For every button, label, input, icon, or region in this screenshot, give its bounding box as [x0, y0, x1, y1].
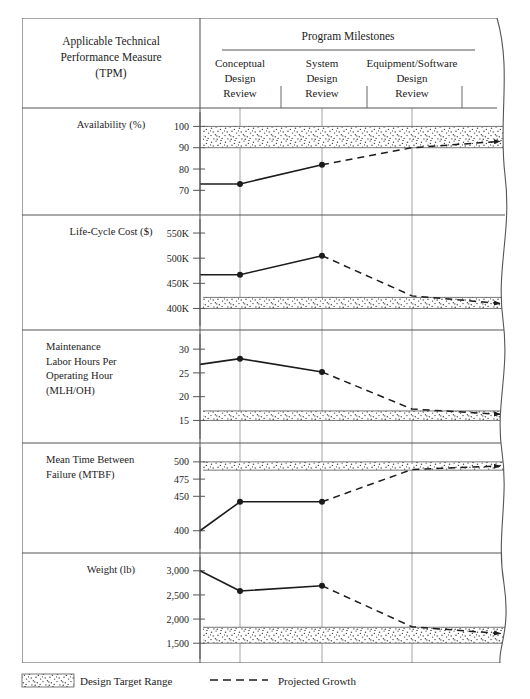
milestone-label-line: Design [224, 72, 256, 84]
milestone-header-equipment-software-design-review: Equipment/SoftwareDesignReview [366, 57, 457, 99]
data-point-marker [237, 272, 243, 278]
milestone-label-line: Review [395, 87, 429, 99]
design-target-range-band [203, 297, 512, 308]
y-tick-label: 80 [179, 164, 189, 175]
series-actual [200, 253, 325, 278]
milestone-header-conceptual-design-review: ConceptualDesignReview [215, 57, 265, 99]
y-tick-label: 25 [179, 368, 189, 379]
row-label-weight: Weight (lb) [87, 564, 136, 576]
tpm-tracking-figure: Applicable TechnicalPerformance Measure(… [0, 0, 530, 699]
row-label-line: Life-Cycle Cost ($) [70, 226, 153, 238]
y-tick-label: 3,000 [167, 565, 190, 576]
row-label-life-cycle-cost: Life-Cycle Cost ($) [70, 226, 153, 238]
panel-availability: 100908070Availability (%) [77, 108, 512, 215]
legend: Design Target RangeProjected Growth [22, 674, 356, 687]
panel-weight: 3,0002,5002,0001,500Weight (lb) [87, 553, 512, 663]
series-actual [200, 162, 325, 187]
row-label-availability: Availability (%) [77, 119, 146, 131]
milestone-label-line: Design [306, 72, 338, 84]
series-projected-growth [322, 466, 500, 502]
row-label-line: Mean Time Between [46, 454, 135, 465]
data-point-marker [237, 181, 243, 187]
y-axis: 3,0002,5002,0001,500 [167, 557, 206, 659]
series-actual [200, 499, 325, 531]
y-tick-label: 100 [174, 121, 189, 132]
y-tick-label: 1,500 [167, 638, 190, 649]
series-actual [200, 571, 325, 594]
y-tick-label: 2,000 [167, 614, 190, 625]
row-label-maintenance-labor-hours: MaintenanceLabor Hours PerOperating Hour… [46, 341, 117, 397]
y-axis: 30252015 [179, 334, 205, 439]
design-target-range-band [203, 627, 512, 643]
y-tick-label: 400K [167, 303, 190, 314]
y-tick-label: 500 [174, 456, 189, 467]
legend-label-projected-growth: Projected Growth [278, 675, 356, 687]
row-label-line: Labor Hours Per [46, 356, 117, 367]
y-tick-label: 500K [167, 253, 190, 264]
y-axis: 550K500K450K400K [167, 219, 205, 326]
design-target-range-band [203, 462, 512, 470]
design-target-range-swatch [22, 674, 74, 687]
y-tick-label: 475 [174, 474, 189, 485]
y-tick-label: 400 [174, 525, 189, 536]
row-label-line: Maintenance [46, 341, 101, 352]
table-header: Applicable TechnicalPerformance Measure(… [60, 30, 475, 99]
y-tick-label: 70 [179, 185, 189, 196]
panel-life-cycle-cost: 550K500K450K400KLife-Cycle Cost ($) [70, 215, 512, 330]
series-actual [200, 356, 325, 375]
y-tick-label: 2,500 [167, 590, 190, 601]
series-projected-growth [322, 372, 500, 414]
program-milestones-title: Program Milestones [302, 30, 395, 43]
milestone-label-line: Design [396, 72, 428, 84]
milestone-label-line: Review [305, 87, 339, 99]
y-tick-label: 20 [179, 391, 189, 402]
panel-mean-time-between-failure: 500475450400Mean Time BetweenFailure (MT… [46, 443, 512, 553]
y-tick-label: 15 [179, 415, 189, 426]
row-label-line: Weight (lb) [87, 564, 136, 576]
legend-label-design-target-range: Design Target Range [80, 675, 172, 687]
measure-header-line: (TPM) [95, 67, 126, 80]
milestone-label-line: Equipment/Software [366, 57, 457, 69]
data-point-marker [237, 588, 243, 594]
measure-header-line: Performance Measure [60, 51, 161, 63]
torn-page-edge [497, 18, 507, 663]
milestone-label-line: System [306, 57, 339, 69]
series-projected-growth [322, 586, 500, 634]
y-tick-label: 450 [174, 491, 189, 502]
row-label-mean-time-between-failure: Mean Time BetweenFailure (MTBF) [46, 454, 135, 481]
milestone-label-line: Conceptual [215, 57, 265, 69]
design-target-range-band [203, 411, 512, 421]
y-tick-label: 550K [167, 228, 190, 239]
series-projected-growth [322, 256, 500, 304]
row-label-line: Operating Hour [46, 370, 113, 381]
data-point-marker [237, 499, 243, 505]
y-tick-label: 450K [167, 278, 190, 289]
y-tick-label: 30 [179, 344, 189, 355]
measure-header-line: Applicable Technical [62, 35, 160, 48]
panel-maintenance-labor-hours: 30252015MaintenanceLabor Hours PerOperat… [46, 330, 512, 443]
row-label-line: Availability (%) [77, 119, 146, 131]
row-label-line: Failure (MTBF) [46, 469, 115, 481]
data-point-marker [237, 356, 243, 362]
y-tick-label: 90 [179, 142, 189, 153]
milestone-header-system-design-review: SystemDesignReview [305, 57, 339, 99]
row-label-line: (MLH/OH) [46, 385, 95, 397]
milestone-label-line: Review [223, 87, 257, 99]
